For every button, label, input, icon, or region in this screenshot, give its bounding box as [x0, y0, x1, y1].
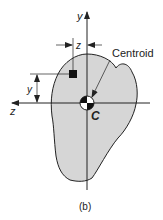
- z-axis-label: z: [9, 105, 16, 117]
- centroid-label: Centroid: [112, 47, 154, 59]
- centroid-diagram: y z z y Centroid C (b): [0, 0, 163, 220]
- diagram-svg: y z z y Centroid C (b): [0, 0, 163, 220]
- centroid-point-label: C: [91, 109, 100, 123]
- area-element: [69, 70, 77, 78]
- y-dimension-label: y: [26, 84, 33, 95]
- y-axis-label: y: [76, 10, 84, 22]
- centroid-symbol: [80, 96, 94, 110]
- figure-caption: (b): [79, 201, 91, 212]
- z-dimension-label: z: [75, 40, 81, 51]
